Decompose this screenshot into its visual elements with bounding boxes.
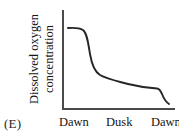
x-axis-tick-labels: Dawn Dusk Dawn xyxy=(56,114,179,134)
y-axis-label: Dissolved oxygen concentration xyxy=(22,0,62,118)
y-axis-label-line-1: Dissolved oxygen xyxy=(27,14,42,104)
x-tick-label-dawn-end: Dawn xyxy=(151,114,179,130)
oxygen-curve-path xyxy=(68,28,169,104)
y-axis-label-line-2: concentration xyxy=(42,14,57,104)
plot-area xyxy=(62,10,175,110)
oxygen-curve xyxy=(62,10,175,110)
x-tick-label-dusk: Dusk xyxy=(106,114,132,130)
figure-panel: (E) Dissolved oxygen concentration Dawn … xyxy=(0,0,179,137)
y-axis-label-text: Dissolved oxygen concentration xyxy=(27,14,57,104)
option-letter: (E) xyxy=(4,116,21,131)
x-tick-label-dawn-start: Dawn xyxy=(59,114,89,130)
